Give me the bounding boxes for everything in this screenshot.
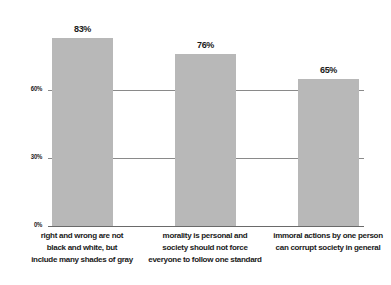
y-tick-0: 0%: [17, 221, 43, 228]
value-label-1: 83%: [52, 24, 113, 34]
category-3-line-2: can corrupt society in general: [268, 242, 388, 254]
category-1-line-2: black and white, but: [22, 242, 142, 254]
category-label-1: right and wrong are not black and white,…: [22, 230, 142, 266]
x-axis-baseline: [48, 226, 364, 227]
bar-chart: 60% 30% 0% 83% 76% 65% right and wrong a…: [0, 0, 391, 285]
category-2-line-2: society should not force: [145, 242, 265, 254]
bar-3: [298, 79, 359, 226]
value-label-3: 65%: [298, 65, 359, 75]
value-label-2: 76%: [175, 40, 236, 50]
category-label-2: morality is personal and society should …: [145, 230, 265, 266]
y-tick-60: 60%: [17, 85, 43, 92]
category-3-line-1: immoral actions by one person: [268, 230, 388, 242]
y-tick-30: 30%: [17, 153, 43, 160]
bar-2: [175, 54, 236, 226]
category-2-line-3: everyone to follow one standard: [145, 254, 265, 266]
category-label-3: immoral actions by one person can corrup…: [268, 230, 388, 254]
category-2-line-1: morality is personal and: [145, 230, 265, 242]
category-1-line-1: right and wrong are not: [22, 230, 142, 242]
category-1-line-3: include many shades of gray: [22, 254, 142, 266]
bar-1: [52, 38, 113, 226]
